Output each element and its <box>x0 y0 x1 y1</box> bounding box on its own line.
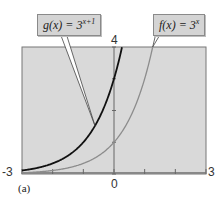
legend-g-exponent: x+1 <box>82 17 95 26</box>
x-tick-label-zero: 0 <box>111 177 118 191</box>
legend-callout-f: f(x) = 3x <box>153 14 205 36</box>
x-tick-label-min: -3 <box>2 165 13 179</box>
y-tick-label-max: 4 <box>111 33 118 47</box>
x-tick-label-max: 3 <box>208 165 215 179</box>
legend-g-text: g(x) = 3 <box>43 18 82 32</box>
panel-label: (a) <box>18 182 30 194</box>
legend-f-text: f(x) = 3 <box>159 18 196 32</box>
legend-f-exponent: x <box>196 17 200 26</box>
legend-callout-g: g(x) = 3x+1 <box>37 14 101 36</box>
